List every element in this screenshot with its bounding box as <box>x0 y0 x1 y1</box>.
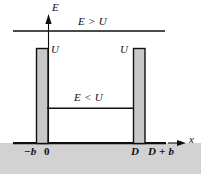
left-barrier-height-label: U <box>51 44 59 55</box>
y-axis-label: E <box>52 2 59 13</box>
potential-well-diagram: E E > U E < U U U −b 0 D D + b x <box>0 0 201 174</box>
x-tick-label-D: D <box>131 146 139 157</box>
right-barrier-height-label: U <box>120 44 128 55</box>
energy-label-above-barrier: E > U <box>78 16 107 27</box>
x-tick-label-D-plus-b: D + b <box>148 146 174 157</box>
x-axis-label: x <box>189 134 194 145</box>
right-barrier <box>134 49 146 144</box>
energy-label-below-barrier: E < U <box>74 92 103 103</box>
x-tick-label-minus-b: −b <box>24 146 36 157</box>
y-axis-arrowhead <box>45 14 51 24</box>
x-tick-label-zero: 0 <box>44 146 50 157</box>
left-barrier <box>37 49 49 144</box>
